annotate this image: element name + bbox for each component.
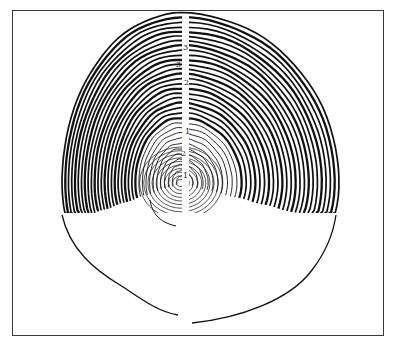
ring-label: 3 <box>183 44 188 52</box>
ring-label: 2 <box>184 79 189 87</box>
ring-label: 3 <box>176 61 181 69</box>
ring-label: 1 <box>183 172 188 180</box>
growth-rings <box>14 13 382 334</box>
growth-ring <box>132 113 246 200</box>
ring-label: 2 <box>181 150 186 158</box>
figure-canvas: 3 3 2 1 2 1 <box>0 0 394 345</box>
inner-ring <box>156 161 206 204</box>
tree-rings-illustration <box>0 0 394 345</box>
ring-label: 1 <box>185 128 190 136</box>
inner-ring <box>144 151 219 216</box>
inner-ring <box>148 154 214 212</box>
